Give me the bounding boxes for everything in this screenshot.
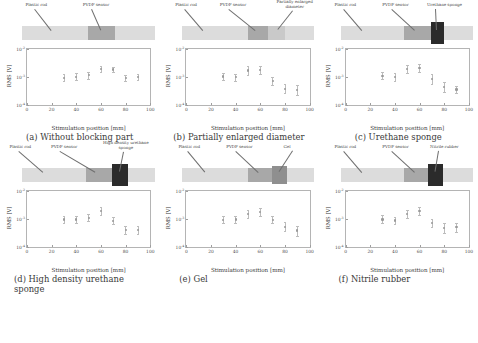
- x-tick-mark: [126, 103, 127, 105]
- data-point: [222, 219, 224, 221]
- data-point: [381, 75, 383, 77]
- error-bar-cap: [381, 215, 384, 216]
- x-tick-mark: [444, 245, 445, 247]
- data-point: [284, 88, 286, 90]
- y-tick-mark: [27, 105, 29, 106]
- error-bar-cap: [75, 223, 78, 224]
- data-point: [75, 218, 77, 220]
- x-tick-mark: [126, 245, 127, 247]
- data-point: [112, 220, 114, 222]
- y-tick-label: 10-3: [16, 74, 25, 80]
- data-point: [112, 68, 114, 70]
- error-bar-cap: [100, 215, 103, 216]
- schematic-block-pvdf-sensor: [248, 168, 272, 182]
- x-tick-label: 20: [49, 249, 55, 254]
- x-tick-mark: [101, 245, 102, 247]
- error-bar-cap: [75, 216, 78, 217]
- x-tick-mark: [260, 245, 261, 247]
- plot-b: RMS [V]10-210-310-4020406080100Stimulati…: [159, 46, 318, 122]
- error-bar-cap: [296, 85, 299, 86]
- y-tick-label: 10-4: [16, 102, 25, 108]
- error-bar-cap: [443, 92, 446, 93]
- data-point: [406, 68, 408, 70]
- error-bar-cap: [296, 236, 299, 237]
- annotation-partially-enlarged-diameter: Partially enlarged diameter: [271, 0, 319, 10]
- error-bar-cap: [63, 216, 66, 217]
- x-tick-mark: [395, 245, 396, 247]
- y-tick-mark: [186, 247, 188, 248]
- error-bar-cap: [87, 221, 90, 222]
- x-tick-mark: [260, 103, 261, 105]
- x-tick-mark: [420, 245, 421, 247]
- x-tick-label: 40: [74, 107, 80, 112]
- data-point: [75, 76, 77, 78]
- x-axis-label: Stimulation position [mm]: [345, 267, 470, 273]
- data-point: [394, 76, 396, 78]
- annotation-gel: Gel: [284, 145, 291, 150]
- error-bar-cap: [284, 93, 287, 94]
- error-bar-cap: [247, 75, 250, 76]
- error-bar-cap: [394, 73, 397, 74]
- error-bar-cap: [406, 73, 409, 74]
- x-tick-mark: [469, 245, 470, 247]
- annotation-plastic-rod: Plastic rod: [175, 3, 197, 8]
- error-bar-cap: [222, 73, 225, 74]
- error-bar-cap: [112, 224, 115, 225]
- error-bar-cap: [455, 232, 458, 233]
- error-bar-cap: [296, 226, 299, 227]
- annotation-plastic-rod: Plastic rod: [10, 145, 32, 150]
- error-bar-cap: [137, 80, 140, 81]
- schematic-b: Plastic rodPVDF sensorPartially enlarged…: [159, 0, 318, 46]
- x-tick-label: 80: [441, 249, 447, 254]
- annotation-pvdf-sensor: PVDF sensor: [220, 3, 246, 8]
- annotation-nitrile-rubber: Nitrile rubber: [430, 145, 458, 150]
- annotation-high-density-urethane-sponge: High density urethane sponge: [102, 141, 150, 151]
- x-tick-label: 0: [26, 249, 29, 254]
- y-tick-label: 10-2: [16, 46, 25, 52]
- x-tick-mark: [285, 245, 286, 247]
- error-bar-cap: [75, 73, 78, 74]
- error-bar-cap: [271, 216, 274, 217]
- error-bar-cap: [137, 234, 140, 235]
- y-tick-mark: [346, 219, 348, 220]
- panel-e: Plastic rodPVDF sensorGel RMS [V]10-210-…: [159, 142, 318, 294]
- schematic-block-pvdf-sensor: [404, 26, 430, 40]
- error-bar-cap: [100, 207, 103, 208]
- x-axis-label: Stimulation position [mm]: [26, 267, 151, 273]
- caption-e: (e) Gel: [159, 275, 318, 284]
- data-point: [381, 218, 383, 220]
- error-bar-cap: [112, 72, 115, 73]
- error-bar-cap: [455, 86, 458, 87]
- error-bar-cap: [406, 65, 409, 66]
- y-tick-label: 10-4: [176, 102, 185, 108]
- data-point: [296, 229, 298, 231]
- annotation-pvdf-sensor: PVDF sensor: [382, 3, 408, 8]
- x-tick-mark: [310, 103, 311, 105]
- x-tick-label: 100: [146, 249, 154, 254]
- x-tick-mark: [52, 245, 53, 247]
- schematic-block-pvdf-sensor: [404, 168, 428, 182]
- x-tick-label: 100: [146, 107, 154, 112]
- y-tick-label: 10-2: [335, 46, 344, 52]
- y-axis-label: RMS [V]: [165, 207, 171, 230]
- x-tick-mark: [370, 103, 371, 105]
- x-tick-label: 80: [441, 107, 447, 112]
- x-tick-mark: [186, 103, 187, 105]
- x-tick-mark: [52, 103, 53, 105]
- error-bar-cap: [259, 216, 262, 217]
- error-bar-cap: [234, 223, 237, 224]
- schematic-block-partially-enlarged-diameter: [268, 26, 285, 40]
- error-bar-cap: [222, 80, 225, 81]
- caption-c: (c) Urethane sponge: [319, 133, 478, 142]
- schematic-a: Plastic rodPVDF sensor: [0, 0, 159, 46]
- error-bar-cap: [406, 210, 409, 211]
- x-axis-label: Stimulation position [mm]: [26, 125, 151, 131]
- x-tick-mark: [310, 245, 311, 247]
- x-tick-mark: [444, 103, 445, 105]
- panel-f: Plastic rodPVDF sensorNitrile rubber RMS…: [319, 142, 478, 294]
- error-bar-cap: [222, 223, 225, 224]
- error-bar-cap: [100, 66, 103, 67]
- data-point: [63, 77, 65, 79]
- schematic-d: Plastic rodPVDF sensorHigh density ureth…: [0, 142, 159, 188]
- data-point: [235, 218, 237, 220]
